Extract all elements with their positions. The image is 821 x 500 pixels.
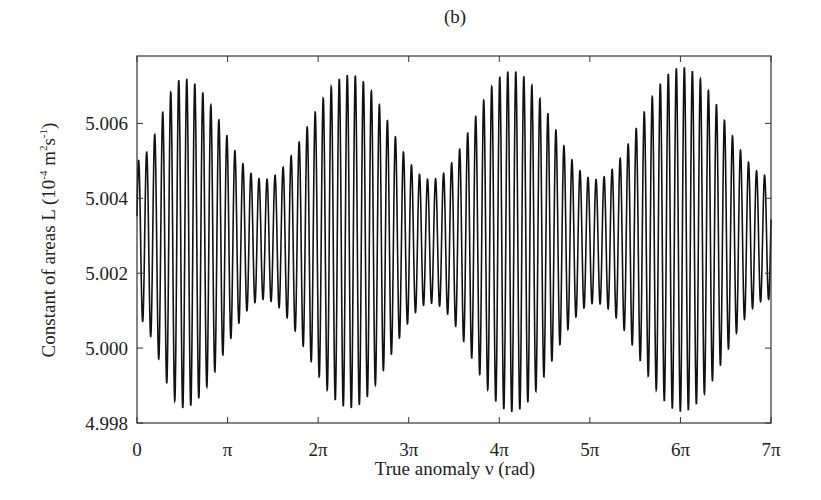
y-tick-label: 5.006 [85,113,128,134]
data-series-line [137,67,771,411]
y-tick-label: 4.998 [85,413,128,434]
x-tick-label: 6π [671,439,691,460]
chart-title: (b) [444,6,466,28]
plot-area [137,56,771,423]
x-tick-label: π [223,439,233,460]
y-tick-label: 5.002 [85,263,128,284]
x-tick-label: 4π [490,439,510,460]
y-label-end: ) [38,123,60,129]
svg-text:Constant of areas L (10-4 m2s-: Constant of areas L (10-4 m2s-1) [37,123,60,358]
y-tick-label: 5.000 [85,338,128,359]
x-tick-label: 3π [399,439,419,460]
y-label-mid: m [38,151,59,171]
x-tick-label: 0 [132,439,142,460]
y-label-mid2: s [38,138,59,145]
x-tick-label: 5π [580,439,600,460]
y-axis-label: Constant of areas L (10-4 m2s-1) [37,123,60,358]
x-tick-label: 2π [309,439,329,460]
x-axis-label: True anomaly ν (rad) [375,458,535,480]
chart-figure: (b) 0π2π3π4π5π6π7π 4.9985.0005.0025.0045… [0,0,821,500]
y-label-main: Constant of areas L (10 [38,180,60,358]
x-tick-label: 7π [761,439,781,460]
y-tick-label: 5.004 [85,188,128,209]
y-label-exp3: -1 [37,129,49,138]
